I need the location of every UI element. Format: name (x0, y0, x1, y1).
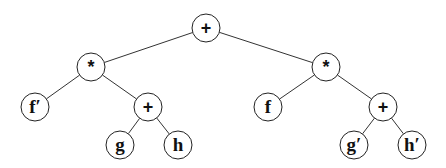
tree-node-g: g (106, 131, 134, 159)
tree-node-f: f (254, 93, 282, 121)
node-label: + (378, 97, 389, 117)
edge-mulR-f (280, 75, 315, 99)
node-label: f′ (29, 96, 41, 117)
tree-node-mulL: * (77, 53, 105, 81)
tree-node-fprime: f′ (21, 93, 49, 121)
edge-mulL-fprime (46, 75, 79, 99)
node-label: + (143, 97, 154, 117)
node-label: * (322, 57, 329, 77)
edge-plusL-h (157, 118, 170, 134)
node-label: f (265, 96, 272, 117)
edge-plusL-g (128, 118, 139, 133)
expression-tree: +**f′+ghf+g′h′ (0, 0, 446, 168)
tree-node-h: h (164, 131, 192, 159)
tree-node-mulR: * (312, 53, 340, 81)
node-label: h′ (404, 134, 420, 155)
edge-mulR-plusR (337, 75, 371, 99)
node-label: g (115, 134, 125, 155)
tree-node-gprime: g′ (340, 131, 368, 159)
tree-edges (46, 32, 403, 134)
node-label: g′ (347, 134, 362, 155)
tree-nodes: +**f′+ghf+g′h′ (21, 14, 426, 159)
edge-mulL-plusL (102, 75, 136, 99)
edge-root-mulR (219, 32, 312, 62)
node-label: h (173, 134, 184, 155)
tree-node-hprime: h′ (398, 131, 426, 159)
edge-plusR-hprime (391, 118, 403, 134)
tree-node-plusL: + (134, 93, 162, 121)
edge-plusR-gprime (362, 118, 374, 134)
edge-root-mulL (104, 32, 192, 62)
node-label: + (201, 18, 212, 38)
node-label: * (87, 57, 94, 77)
tree-node-plusR: + (369, 93, 397, 121)
tree-node-root: + (192, 14, 220, 42)
